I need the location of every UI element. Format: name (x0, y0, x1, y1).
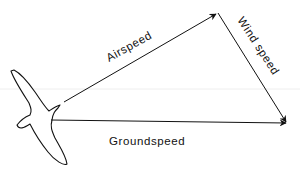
wind-speed-label: Wind speed (235, 15, 281, 78)
bird-icon (11, 70, 67, 164)
groundspeed-arrow (51, 120, 286, 123)
diagram-svg: Airspeed Wind speed Groundspeed (0, 0, 300, 184)
groundspeed-label: Groundspeed (109, 135, 185, 147)
airspeed-label: Airspeed (104, 29, 154, 64)
wind-vector-diagram: Airspeed Wind speed Groundspeed (0, 0, 300, 184)
